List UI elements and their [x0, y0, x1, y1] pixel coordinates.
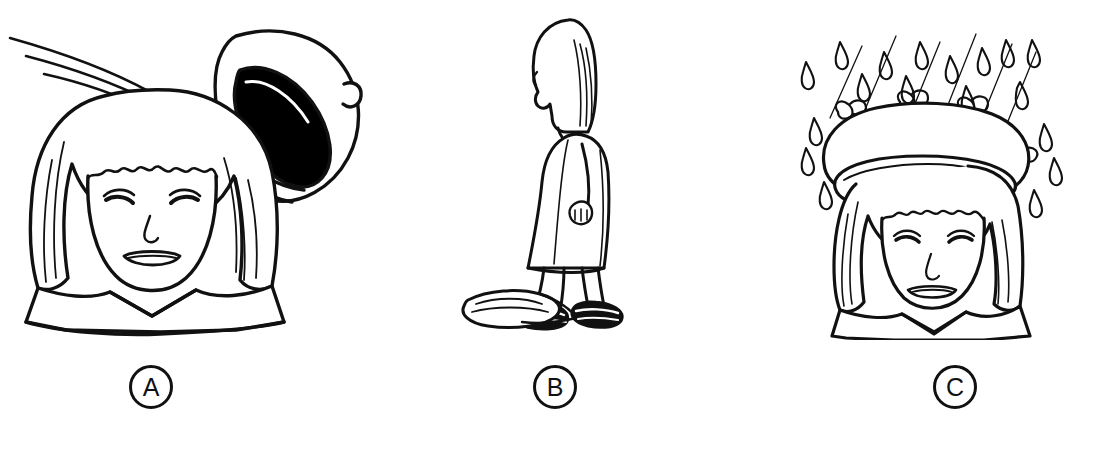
panel-label-a: A	[143, 375, 160, 400]
panel-label-circle-c: C	[933, 365, 977, 409]
panel-b-label-wrap: B	[372, 352, 744, 422]
illustration-sheet: A	[0, 0, 1116, 449]
panel-c-label-wrap: C	[744, 352, 1116, 422]
girl-walking-past-hat-illustration	[372, 0, 744, 340]
hat-blowing-off-illustration	[0, 0, 372, 340]
panel-a-artwork	[0, 0, 372, 340]
panel-label-circle-a: A	[129, 365, 173, 409]
panel-b: B	[372, 0, 744, 449]
panel-label-c: C	[946, 375, 964, 400]
panel-label-b: B	[547, 375, 564, 400]
girl-head-front	[832, 166, 1030, 340]
panel-a: A	[0, 0, 372, 449]
panel-c-artwork	[744, 0, 1116, 340]
panel-c: C	[744, 0, 1116, 449]
girl-walking-profile	[515, 20, 622, 329]
beret-on-ground	[463, 291, 576, 328]
panel-a-label-wrap: A	[0, 352, 372, 422]
girl-head-front	[26, 90, 284, 335]
panel-label-circle-b: B	[533, 365, 577, 409]
panel-b-artwork	[372, 0, 744, 340]
girl-wearing-hat-in-rain-illustration	[744, 0, 1116, 340]
